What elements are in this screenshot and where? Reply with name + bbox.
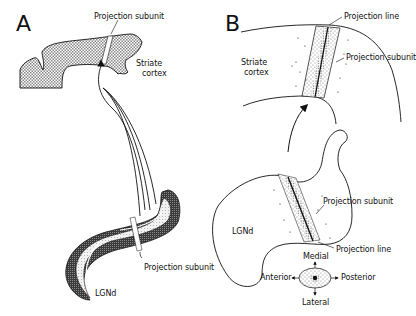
panel-a-fibers [99, 62, 156, 216]
label-b-cortex: cortex [244, 69, 269, 77]
label-b-projection-line-lgn: Projection line [336, 246, 391, 254]
panel-a-lgnd [66, 190, 180, 300]
label-a-lgnd: LGNd [95, 290, 116, 298]
label-a-projection-subunit-top: Projection subunit [94, 13, 164, 21]
panel-a-striate-cortex [20, 34, 142, 88]
label-b-projection-subunit-top: Projection subunit [346, 54, 416, 62]
panel-b-lgn-column [278, 174, 320, 242]
label-a-projection-subunit-bottom: Projection subunit [144, 264, 214, 272]
panel-b-projection-arrow [288, 106, 306, 152]
label-orientation-anterior: Anterior [260, 274, 292, 282]
label-orientation-lateral: Lateral [302, 299, 329, 307]
label-b-striate: Striate [241, 59, 267, 67]
label-orientation-medial: Medial [303, 253, 329, 261]
label-orientation-posterior: Posterior [341, 274, 375, 282]
orientation-compass [292, 262, 338, 295]
panel-b-lgnd [213, 130, 352, 287]
label-a-cortex: cortex [142, 70, 167, 78]
panel-b-cortical-column [302, 26, 340, 98]
label-b-lgnd: LGNd [232, 228, 253, 236]
label-b-projection-line-top: Projection line [344, 13, 399, 21]
label-a-striate: Striate [136, 60, 162, 68]
panel-label-a: A [16, 13, 31, 35]
label-b-projection-subunit-lgn: Projection subunit [323, 198, 393, 206]
panel-label-b: B [225, 13, 240, 35]
